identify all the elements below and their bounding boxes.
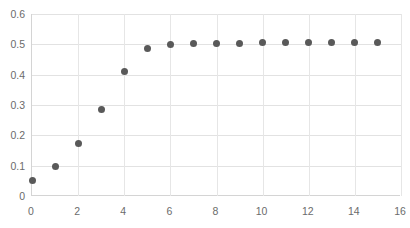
- x-axis-tick-label: 8: [201, 206, 231, 217]
- x-axis-tick-label: 12: [293, 206, 323, 217]
- y-axis-tick-label: 0.6: [0, 9, 25, 20]
- x-axis-tick-label: 14: [339, 206, 369, 217]
- x-axis-tick-label: 10: [247, 206, 277, 217]
- gridline-vertical: [124, 14, 125, 196]
- data-point: [29, 177, 36, 184]
- data-point: [213, 40, 220, 47]
- x-axis-tick-label: 0: [16, 206, 46, 217]
- data-point: [144, 45, 151, 52]
- y-axis-tick-label: 0.4: [0, 70, 25, 81]
- data-point: [52, 163, 59, 170]
- gridline-vertical: [401, 14, 402, 196]
- data-point: [190, 40, 197, 47]
- data-point: [98, 106, 105, 113]
- data-point: [167, 41, 174, 48]
- x-axis-tick-label: 2: [62, 206, 92, 217]
- y-axis-tick-label: 0: [0, 191, 25, 202]
- x-axis-tick-label: 4: [108, 206, 138, 217]
- x-axis-tick-label: 16: [385, 206, 410, 217]
- gridline-vertical: [78, 14, 79, 196]
- y-axis-tick-label: 0.2: [0, 130, 25, 141]
- y-axis-tick-label: 0.5: [0, 39, 25, 50]
- data-point: [75, 140, 82, 147]
- plot-area: [31, 14, 400, 196]
- x-axis-tick-label: 6: [154, 206, 184, 217]
- y-axis-tick-label: 0.1: [0, 161, 25, 172]
- data-point: [236, 40, 243, 47]
- scatter-chart: 00.10.20.30.40.50.6 0246810121416: [0, 0, 410, 228]
- y-axis-tick-label: 0.3: [0, 100, 25, 111]
